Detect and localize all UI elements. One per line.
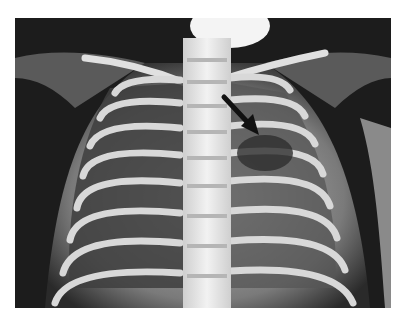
xray-drawing: [15, 18, 391, 308]
chest-xray-image: [15, 18, 391, 308]
spine: [183, 38, 231, 308]
